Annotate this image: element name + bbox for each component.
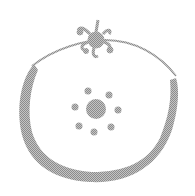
seed [91,129,98,136]
fruit-icon [0,0,195,196]
seed [115,107,122,114]
stem-icon [77,20,113,57]
seed [76,123,83,130]
fruit-outline-body [19,64,178,182]
seed [72,104,79,111]
fruit-illustration [0,0,195,196]
fruit-outline-top [32,40,176,76]
seed-pattern [72,88,122,136]
seed [85,88,92,95]
center-seed [86,99,106,119]
seed [108,124,115,131]
seed [106,92,113,99]
